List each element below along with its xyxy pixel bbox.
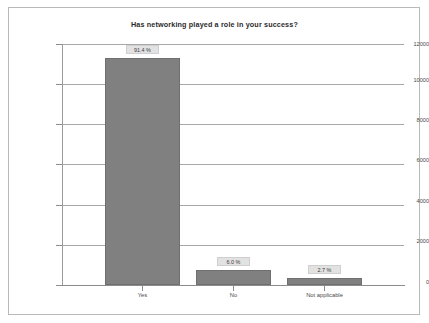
bar-label-no: 6.0 % bbox=[217, 257, 250, 266]
bar-yes[interactable] bbox=[105, 58, 180, 285]
chart-title: Has networking played a role in your suc… bbox=[0, 20, 429, 29]
y-tick-label: 6000 bbox=[377, 157, 429, 163]
x-tick-mark bbox=[233, 286, 234, 291]
y-axis-line bbox=[62, 44, 63, 286]
x-category-label-no: No bbox=[203, 292, 264, 298]
y-tick-label: 8000 bbox=[377, 117, 429, 123]
y-tick-label: 2000 bbox=[377, 238, 429, 244]
chart-screenshot: Has networking played a role in your suc… bbox=[0, 0, 429, 323]
x-tick-mark bbox=[324, 286, 325, 291]
bar-label-yes: 91.4 % bbox=[126, 45, 159, 54]
y-tick-label: 4000 bbox=[377, 198, 429, 204]
bar-not-applicable[interactable] bbox=[287, 278, 362, 285]
x-category-label-not-applicable: Not applicable bbox=[290, 292, 359, 298]
bar-label-not-applicable: 2.7 % bbox=[308, 265, 341, 274]
bar-no[interactable] bbox=[196, 270, 271, 285]
x-category-label-yes: Yes bbox=[112, 292, 173, 298]
y-tick-label: 10000 bbox=[377, 77, 429, 83]
x-tick-mark bbox=[142, 286, 143, 291]
chart-frame bbox=[8, 7, 420, 315]
gridline bbox=[62, 44, 404, 45]
